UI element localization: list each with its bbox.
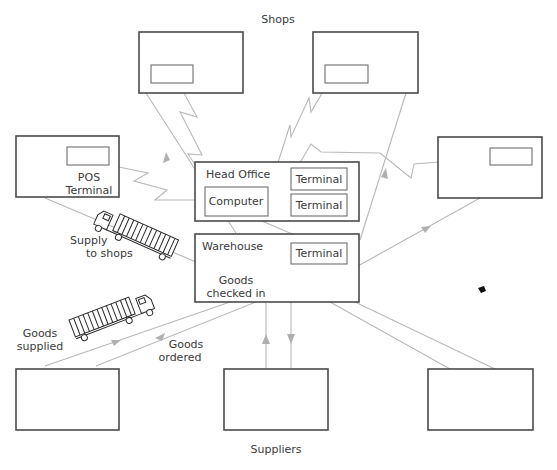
supply-to-shops-line2: to shops: [86, 247, 133, 260]
goods-ordered-line2: ordered: [159, 351, 202, 364]
shop-box-top-left: [139, 32, 243, 93]
goods-checked-in-line2: checked in: [206, 287, 265, 300]
arrow-head: [287, 334, 295, 344]
suppliers-title: Suppliers: [250, 443, 301, 456]
pos-terminal-screen: [490, 148, 532, 165]
pos-terminal-screen: [325, 65, 368, 83]
arrow-head: [111, 340, 121, 346]
shop-box-right: [438, 137, 542, 198]
pos-label-line1: POS: [78, 171, 100, 184]
shop-box-top-right: [313, 32, 418, 93]
cursor-icon: [478, 286, 486, 293]
arrow-head: [155, 333, 165, 341]
computer-label: Computer: [209, 195, 264, 208]
supplier-box-right: [428, 369, 533, 430]
goods-supplied-line1: Goods: [23, 327, 58, 340]
supply-to-shops-line1: Supply: [70, 234, 108, 247]
shops-title: Shops: [261, 13, 295, 26]
goods-supplied-line2: supplied: [17, 340, 64, 353]
terminal-label-1: Terminal: [295, 173, 343, 186]
arrow-head: [262, 334, 270, 344]
warehouse-terminal-label: Terminal: [295, 247, 343, 260]
supplier-box-middle: [224, 369, 328, 430]
link-shop2-warehouse: [360, 93, 406, 240]
link-shop3-warehouse: [358, 198, 480, 266]
link-warehouse-supplier3-b: [355, 302, 495, 369]
supplier-box-left: [16, 369, 119, 430]
pos-terminal-screen: [67, 147, 109, 165]
truck-icon: [69, 290, 156, 343]
link-warehouse-supplier3-a: [330, 302, 450, 369]
pos-terminal-screen: [151, 65, 193, 83]
goods-checked-in-line1: Goods: [219, 274, 254, 287]
pos-label-line2: Terminal: [65, 184, 113, 197]
head-office-title: Head Office: [206, 168, 271, 181]
wireless-link-shoppos: [109, 165, 204, 200]
arrow-head: [163, 152, 170, 163]
warehouse-title: Warehouse: [202, 240, 263, 253]
terminal-label-2: Terminal: [295, 199, 343, 212]
link-warehouse-supplier1-a: [45, 302, 230, 366]
supply-chain-diagram: POS Terminal Head Office Computer Termin…: [0, 0, 557, 470]
goods-ordered-line1: Goods: [169, 338, 204, 351]
